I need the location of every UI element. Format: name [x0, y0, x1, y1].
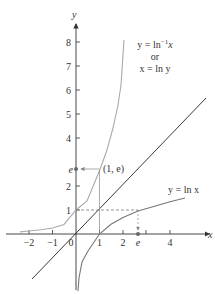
svg-text:6: 6 [66, 85, 71, 96]
graph-svg: y x 1 2 4 5 6 7 8 e −2 −1 0 1 2 e 4 (1, … [0, 0, 215, 294]
svg-text:e: e [69, 164, 74, 175]
svg-text:−2: −2 [24, 237, 35, 248]
ln-curve-label: y = ln x [168, 184, 199, 195]
x-axis-label: x [207, 229, 213, 240]
y-tick-labels: 1 2 4 5 6 7 8 e [66, 37, 74, 216]
point-e-x [136, 232, 140, 236]
svg-text:4: 4 [66, 133, 71, 144]
svg-text:4: 4 [168, 237, 173, 248]
svg-text:x = ln y: x = ln y [140, 63, 171, 74]
svg-text:1: 1 [97, 237, 102, 248]
point-e-y [74, 167, 78, 171]
svg-text:8: 8 [66, 37, 71, 48]
svg-text:7: 7 [66, 61, 71, 72]
svg-text:−1: −1 [47, 237, 58, 248]
svg-text:or: or [151, 51, 160, 62]
x-tick-labels: −2 −1 0 1 2 e 4 [24, 237, 173, 248]
svg-text:e: e [136, 237, 141, 248]
graph-figure: y x 1 2 4 5 6 7 8 e −2 −1 0 1 2 e 4 (1, … [0, 0, 215, 294]
svg-text:1: 1 [66, 205, 71, 216]
y-ticks [76, 42, 80, 210]
exp-curve-label: y = ln−1x or x = ln y [137, 38, 173, 74]
svg-text:5: 5 [66, 109, 71, 120]
exp-curve [20, 40, 124, 232]
point-label: (1, e) [103, 163, 124, 175]
svg-text:0: 0 [69, 237, 74, 248]
svg-text:2: 2 [66, 181, 71, 192]
y-axis-label: y [71, 9, 77, 20]
svg-text:y = ln−1x: y = ln−1x [137, 38, 173, 50]
svg-text:2: 2 [121, 237, 126, 248]
